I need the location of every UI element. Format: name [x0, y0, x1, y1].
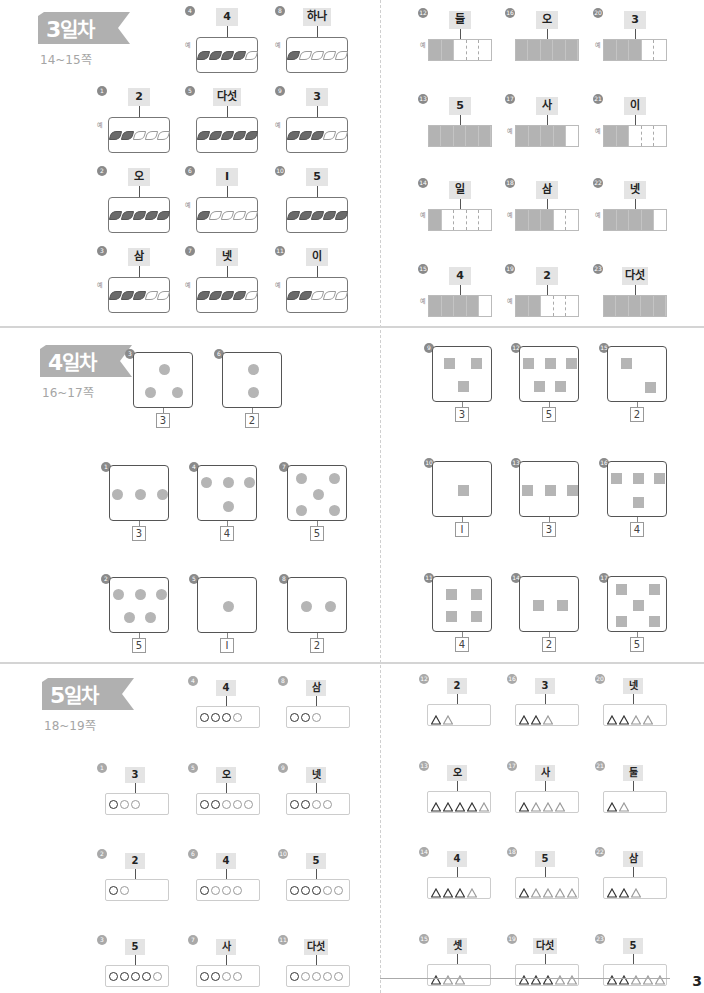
circle-icon [222, 713, 231, 722]
connector-line [635, 199, 636, 209]
leaf-box [196, 277, 258, 313]
circle-icon [142, 972, 151, 981]
question-number-badge: 6 [185, 166, 195, 176]
triangle-icon [531, 883, 541, 893]
example-mark: 예 [595, 210, 601, 219]
square-count-box [519, 461, 579, 517]
question-number-badge: 1 [97, 763, 107, 773]
triangle-box [427, 704, 491, 726]
leaf-box [108, 117, 170, 153]
circle-box [196, 706, 260, 728]
example-mark: 예 [420, 296, 426, 305]
question-number-badge: 18 [505, 178, 515, 188]
circle-icon [301, 886, 310, 895]
triangle-icon [619, 797, 629, 807]
connector-line [460, 285, 461, 295]
circle-icon [290, 972, 299, 981]
answer-label: 2 [536, 267, 558, 285]
example-mark: 예 [420, 40, 426, 49]
question-number-badge: 13 [418, 94, 428, 104]
circle-icon [109, 800, 118, 809]
answer-label: 2 [125, 853, 145, 869]
question-number-badge: 16 [507, 674, 517, 684]
bar-cell [467, 40, 480, 60]
question-number-badge: 20 [593, 8, 603, 18]
dot-count-box [197, 577, 257, 633]
question-number-badge: 11 [275, 246, 285, 256]
leaf-icon [156, 211, 169, 220]
circle-box [196, 879, 260, 901]
answer-label: 3 [535, 678, 555, 694]
question-number-badge: 11 [278, 935, 288, 945]
leaf-box [286, 277, 348, 313]
bar-cell [479, 40, 491, 60]
connector-line [227, 186, 228, 197]
bar-cell [442, 296, 455, 316]
connector-line [226, 955, 227, 965]
leaf-icon [244, 51, 257, 60]
answer-label: 4 [216, 680, 236, 696]
answer-box: 4 [630, 522, 644, 537]
leaf-icon [208, 131, 221, 140]
triangle-box [515, 877, 579, 899]
circle-icon [233, 713, 242, 722]
example-mark: 예 [595, 126, 601, 135]
leaf-icon [334, 291, 347, 300]
square-icon [633, 600, 644, 611]
question-number-badge: 5 [185, 86, 195, 96]
answer-label: 하나 [303, 8, 331, 26]
question-number-badge: 21 [593, 94, 603, 104]
question-number-badge: 2 [97, 166, 107, 176]
bar-cell [429, 40, 442, 60]
leaf-icon [310, 131, 323, 140]
triangle-box [515, 704, 579, 726]
answer-label: 삼 [128, 248, 150, 266]
connector-line [316, 783, 317, 793]
question-number-badge: 22 [593, 178, 603, 188]
question-number-badge: 23 [595, 934, 605, 944]
circle-icon [200, 800, 209, 809]
connector-line [545, 867, 546, 877]
dot-count-box [222, 352, 282, 408]
triangle-icon [543, 797, 553, 807]
bar-cell [454, 40, 467, 60]
square-icon [444, 358, 455, 369]
leaf-icon [108, 291, 121, 300]
example-mark: 예 [595, 40, 601, 49]
circle-icon [211, 800, 220, 809]
bar-cell [604, 126, 617, 146]
triangle-icon [443, 797, 453, 807]
leaf-icon [220, 131, 233, 140]
ten-frame-bar [603, 295, 667, 317]
square-icon [446, 611, 457, 622]
question-number-badge: 6 [188, 849, 198, 859]
circle-icon [323, 800, 332, 809]
leaf-icon [244, 291, 257, 300]
bar-cell [629, 126, 642, 146]
ten-frame-bar [515, 295, 579, 317]
square-icon [621, 358, 632, 369]
circle-icon [153, 972, 162, 981]
leaf-box [286, 117, 348, 153]
example-mark: 예 [185, 280, 191, 289]
connector-line [633, 781, 634, 791]
connector-line [316, 869, 317, 879]
answer-label: 5 [125, 939, 145, 955]
bar-cell [529, 296, 542, 316]
leaf-icon [156, 291, 169, 300]
connector-line [317, 26, 318, 37]
bar-cell [429, 126, 441, 146]
connector-line [460, 29, 461, 39]
answer-label: 다섯 [213, 88, 241, 106]
triangle-box [515, 791, 579, 813]
circle-icon [244, 800, 253, 809]
circle-icon [290, 713, 299, 722]
answer-box: 3 [455, 407, 469, 422]
triangle-box [603, 877, 667, 899]
ten-frame-bar [428, 39, 492, 61]
bar-cell [554, 210, 567, 230]
question-number-badge: 17 [507, 761, 517, 771]
leaf-box [108, 197, 170, 233]
bar-cell [566, 126, 578, 146]
question-number-badge: 4 [185, 6, 195, 16]
